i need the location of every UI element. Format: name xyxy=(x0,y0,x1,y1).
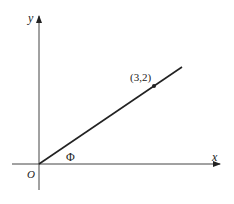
x-axis-label: x xyxy=(211,150,218,164)
y-axis-label: y xyxy=(27,11,34,25)
point-marker xyxy=(152,84,156,88)
ray-line xyxy=(39,67,182,164)
angle-label: Φ xyxy=(66,150,75,164)
origin-label: O xyxy=(27,168,35,180)
point-label: (3,2) xyxy=(130,71,151,84)
coordinate-diagram: y x O Φ (3,2) xyxy=(0,0,234,204)
